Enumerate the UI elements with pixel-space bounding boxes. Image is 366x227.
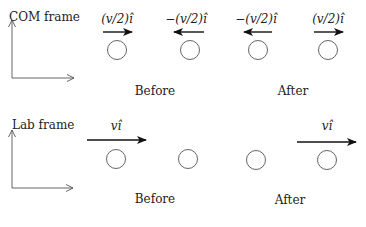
lab-frame-label: Lab frame [12, 118, 74, 132]
com-velocity-label-1: (v/2)î [101, 12, 134, 26]
particle-circle-icon [181, 41, 200, 60]
com-frame-label: COM frame [9, 10, 80, 24]
com-frame-panel: COM frame (v/2)î −(v/2)î −(v/2)î (v/2)î … [9, 10, 345, 98]
particle-circle-icon [179, 150, 198, 169]
particle-circle-icon [108, 41, 127, 60]
com-velocity-label-2: −(v/2)î [165, 12, 208, 26]
lab-before-label: Before [135, 192, 175, 206]
lab-velocity-label-before: vî [111, 119, 123, 133]
lab-after-label: After [274, 193, 306, 207]
particle-circle-icon [318, 151, 337, 170]
com-velocity-label-3: −(v/2)î [235, 12, 278, 26]
com-axes-icon [12, 20, 74, 78]
particle-circle-icon [319, 41, 338, 60]
particle-circle-icon [107, 150, 126, 169]
lab-velocity-label-after: vî [322, 119, 334, 133]
com-before-label: Before [135, 84, 175, 98]
lab-frame-panel: Lab frame vî vî Before After [12, 118, 356, 207]
particle-circle-icon [247, 151, 266, 170]
collision-diagram: COM frame (v/2)î −(v/2)î −(v/2)î (v/2)î … [0, 0, 366, 227]
com-after-label: After [277, 84, 309, 98]
lab-axes-icon [12, 130, 73, 188]
com-velocity-label-4: (v/2)î [312, 12, 345, 26]
particle-circle-icon [249, 41, 268, 60]
